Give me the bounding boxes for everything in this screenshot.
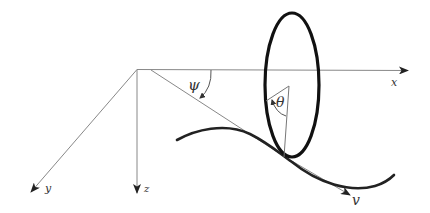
rolling-disk-diagram: x y z ψ θ v [0, 0, 430, 213]
theta-angle-label: θ [276, 94, 285, 110]
psi-angle-arc [200, 70, 211, 98]
velocity-label: v [352, 192, 360, 208]
psi-angle-label: ψ [188, 76, 200, 94]
x-axis [137, 70, 408, 71]
x-axis-label: x [391, 76, 398, 89]
theta-line-contact [284, 86, 289, 157]
z-axis-label: z [143, 183, 150, 194]
wheel-disk [265, 13, 319, 157]
y-axis [31, 70, 137, 193]
y-axis-label: y [44, 182, 52, 195]
